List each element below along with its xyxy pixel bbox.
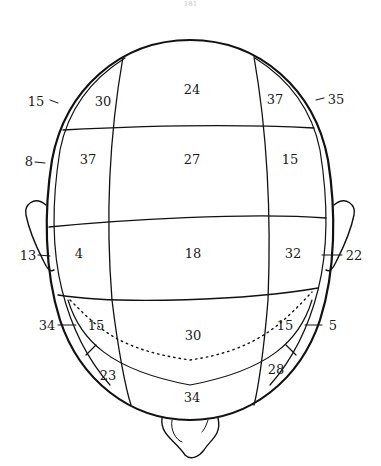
transverse-3 bbox=[58, 288, 318, 300]
rim-lower-right: 5 bbox=[329, 318, 337, 333]
region-front-center: 24 bbox=[184, 82, 201, 97]
region-front-right: 37 bbox=[267, 92, 284, 107]
region-upper-right: 15 bbox=[282, 152, 299, 167]
region-back-left: 23 bbox=[100, 368, 117, 383]
region-back-right: 28 bbox=[268, 362, 285, 377]
region-middle-right: 32 bbox=[285, 246, 302, 261]
region-back-center: 34 bbox=[184, 390, 201, 405]
region-lower-right: 15 bbox=[277, 318, 294, 333]
rim-ear-right: 22 bbox=[346, 248, 363, 263]
region-middle-center: 18 bbox=[185, 246, 202, 261]
transverse-2 bbox=[49, 216, 326, 227]
region-middle-left: 4 bbox=[75, 246, 83, 261]
left-meridian bbox=[109, 57, 131, 405]
region-upper-left: 37 bbox=[80, 152, 97, 167]
rim-upper-left: 8 bbox=[25, 154, 33, 169]
region-lower-center: 30 bbox=[185, 328, 202, 343]
rim-front-left: 15 bbox=[28, 94, 45, 109]
inner-rim-right bbox=[255, 58, 326, 385]
rim-lower-left: 34 bbox=[39, 318, 56, 333]
head-diagram: 30 24 37 37 27 15 4 18 32 15 30 15 23 34… bbox=[0, 0, 381, 466]
transverse-1 bbox=[63, 126, 314, 130]
region-lower-left: 15 bbox=[88, 318, 105, 333]
head-outline bbox=[47, 40, 334, 420]
rim-ear-left: 13 bbox=[20, 248, 37, 263]
rim-front-right: 35 bbox=[328, 92, 345, 107]
region-upper-center: 27 bbox=[184, 152, 201, 167]
dotted-curve bbox=[70, 292, 312, 360]
nose bbox=[162, 418, 219, 458]
back-divider-left bbox=[86, 345, 96, 355]
right-meridian bbox=[254, 57, 269, 405]
region-front-left: 30 bbox=[95, 94, 112, 109]
